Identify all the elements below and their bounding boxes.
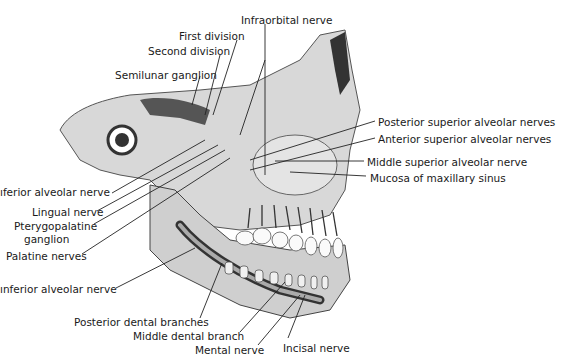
label-mental-nerve: Mental nerve bbox=[195, 344, 264, 356]
label-anterior-superior-alveolar-nerves: Anterior superior alveolar nerves bbox=[378, 133, 551, 145]
label-middle-superior-alveolar-nerve: Middle superior alveolar nerve bbox=[367, 156, 527, 168]
label-posterior-superior-alveolar-nerves: Posterior superior alveolar nerves bbox=[378, 116, 555, 128]
label-pterygopalatine-ganglion-2: ganglion bbox=[24, 233, 69, 245]
label-inferior-alveolar-nerve-lower: ınferior alveolar nerve bbox=[0, 283, 117, 295]
label-mucosa-of-maxillary-sinus: Mucosa of maxillary sinus bbox=[370, 172, 506, 184]
label-second-division: Second division bbox=[148, 45, 230, 57]
label-middle-dental-branch: Middle dental branch bbox=[133, 330, 244, 342]
label-semilunar-ganglion: Semilunar ganglion bbox=[115, 69, 217, 81]
label-palatine-nerves: Palatine nerves bbox=[6, 250, 87, 262]
label-incisal-nerve: Incisal nerve bbox=[283, 342, 350, 354]
label-infraorbital-nerve: Infraorbital nerve bbox=[241, 14, 332, 26]
label-pterygopalatine-ganglion-1: Pterygopalatine bbox=[14, 220, 97, 232]
label-first-division: First division bbox=[179, 30, 245, 42]
anatomy-figure: Infraorbital nerve First division Second… bbox=[0, 0, 566, 360]
label-lingual-nerve: Lingual nerve bbox=[32, 206, 104, 218]
label-inferior-alveolar-nerve-upper: ıferior alveolar nerve bbox=[0, 186, 110, 198]
label-posterior-dental-branches: Posterior dental branches bbox=[74, 316, 209, 328]
